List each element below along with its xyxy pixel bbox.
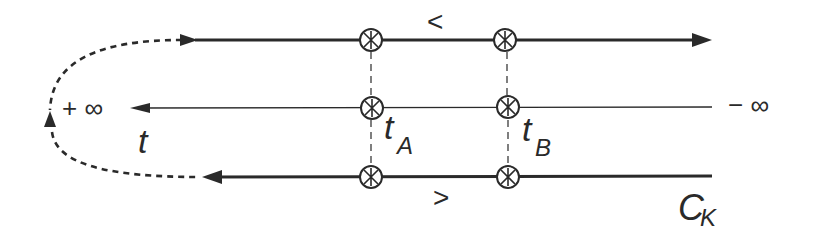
arrow-left-icon xyxy=(202,170,222,184)
arrow-right-icon xyxy=(180,34,198,46)
arrow-up-icon xyxy=(44,111,56,127)
upper-branch-label: < xyxy=(427,8,443,36)
circle-cross-icon xyxy=(494,29,516,51)
circle-cross-icon xyxy=(360,29,382,51)
lower-branch-label: > xyxy=(433,184,449,212)
t-b-subscript: B xyxy=(535,136,551,160)
lower-branch xyxy=(202,170,712,184)
upper-branch xyxy=(180,33,712,47)
t-b-base: t xyxy=(522,112,531,146)
circle-cross-icon xyxy=(497,96,519,118)
minus-infinity-label: − ∞ xyxy=(728,92,769,118)
circle-cross-icon xyxy=(361,97,383,119)
contour-subscript: K xyxy=(700,206,716,230)
time-axis xyxy=(130,103,712,113)
time-axis-label: t xyxy=(138,124,147,158)
circle-cross-icon xyxy=(497,166,519,188)
t-a-subscript: A xyxy=(397,134,413,158)
arrow-left-icon xyxy=(130,103,150,113)
circle-cross-icon xyxy=(360,166,382,188)
plus-infinity-label: + ∞ xyxy=(62,95,103,121)
keldysh-contour-diagram: + ∞ − ∞ t < > t A t B C K xyxy=(0,0,824,244)
arrow-right-icon xyxy=(692,33,712,47)
t-a-base: t xyxy=(384,110,393,144)
